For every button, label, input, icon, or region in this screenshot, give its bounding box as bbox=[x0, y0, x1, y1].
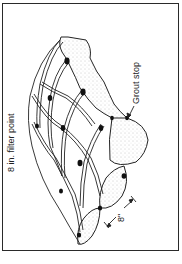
grout-mattress-diagram bbox=[0, 0, 182, 264]
dimension-label: 8" bbox=[116, 214, 126, 222]
grout-stop-leader bbox=[127, 106, 134, 118]
end-pillows bbox=[78, 118, 148, 244]
filter-point-label: 8 in. filter point bbox=[6, 113, 16, 172]
grout-stop-label: Grout stop bbox=[131, 62, 141, 104]
